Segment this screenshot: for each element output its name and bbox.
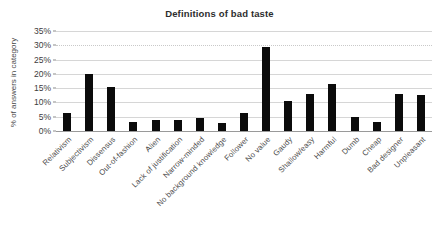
bar xyxy=(306,94,314,131)
bar xyxy=(174,120,182,131)
x-axis-label: Harmful xyxy=(313,135,339,161)
y-tick-label: 35% xyxy=(34,26,51,36)
bars-layer xyxy=(56,31,432,131)
bar xyxy=(196,118,204,131)
bar xyxy=(107,87,115,131)
bar xyxy=(85,74,93,131)
bar xyxy=(395,94,403,131)
bar xyxy=(373,122,381,131)
bar xyxy=(262,47,270,131)
bar xyxy=(240,113,248,131)
y-tick-label: 25% xyxy=(34,55,51,65)
chart-title: Definitions of bad taste xyxy=(0,8,439,19)
y-tick-label: 10% xyxy=(34,97,51,107)
plot-area: 0%5%10%15%20%25%30%35% xyxy=(56,31,432,131)
bar xyxy=(152,120,160,131)
y-tick-label: 30% xyxy=(34,40,51,50)
bar-chart: Definitions of bad taste % of answers in… xyxy=(0,0,439,246)
y-tick-label: 20% xyxy=(34,69,51,79)
x-axis-labels: RelativismSubjectivismDissensusOut-of-fa… xyxy=(56,131,432,241)
bar xyxy=(129,122,137,131)
y-tick-label: 15% xyxy=(34,83,51,93)
x-axis-label: Alien xyxy=(143,135,162,154)
bar xyxy=(351,117,359,131)
x-axis-label: Dumb xyxy=(340,135,361,156)
bar xyxy=(63,113,71,131)
y-axis-title: % of answers in category xyxy=(9,23,18,143)
bar xyxy=(218,123,226,131)
bar xyxy=(328,84,336,131)
bar xyxy=(284,101,292,131)
y-tick-label: 5% xyxy=(39,112,51,122)
bar xyxy=(417,95,425,131)
y-tick-label: 0% xyxy=(39,126,51,136)
